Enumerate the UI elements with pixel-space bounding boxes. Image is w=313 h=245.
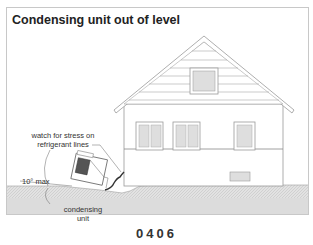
refrigerant-lines [105, 172, 124, 190]
angle-label: 10° max [22, 178, 50, 187]
foundation-vent [230, 172, 250, 181]
ground [7, 185, 308, 214]
stress-note-line2: refrigerant lines [37, 140, 89, 149]
condensing-unit [71, 150, 108, 185]
house [114, 36, 294, 186]
stress-note: watch for stress on refrigerant lines [28, 132, 98, 149]
unit-label: condensing unit [58, 206, 108, 223]
figure-code: 0406 [0, 226, 313, 241]
house-illustration [0, 0, 313, 245]
unit-label-line2: unit [77, 214, 89, 223]
